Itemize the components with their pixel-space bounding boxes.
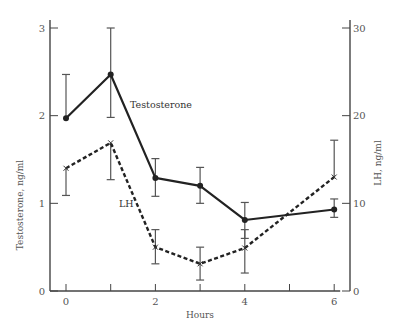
x-tick-label: 0 — [63, 296, 69, 307]
y-axis-title-right: LH, ng/ml — [373, 140, 383, 186]
dot-marker-icon — [108, 71, 114, 77]
y-tick-label-right: 30 — [353, 23, 366, 34]
y-tick-label-right: 0 — [353, 286, 359, 297]
dot-marker-icon — [63, 115, 69, 121]
dot-marker-icon — [152, 175, 158, 181]
y-tick-label-left: 1 — [39, 198, 45, 209]
y-tick-label-left: 0 — [39, 286, 45, 297]
y-tick-label-right: 20 — [353, 110, 366, 121]
y-axis-title-left: Testosterone, ng/ml — [15, 160, 25, 251]
y-tick-label-left: 2 — [39, 110, 45, 121]
dot-marker-icon — [242, 217, 248, 223]
chart: 012301020300246 Hours Testosterone, ng/m… — [0, 0, 399, 333]
dot-marker-icon — [197, 183, 203, 189]
error-bars — [62, 28, 338, 280]
x-axis-title: Hours — [186, 310, 214, 320]
x-tick-label: 6 — [331, 296, 337, 307]
x-tick-label: 2 — [152, 296, 158, 307]
series-label-testosterone: Testosterone — [130, 99, 192, 110]
series-label-lh: LH — [119, 198, 134, 209]
y-tick-label-right: 10 — [353, 198, 366, 209]
dot-marker-icon — [331, 206, 337, 212]
chart-canvas: 012301020300246 Hours Testosterone, ng/m… — [0, 0, 399, 333]
x-tick-label: 4 — [242, 296, 248, 307]
y-tick-label-left: 3 — [39, 23, 45, 34]
